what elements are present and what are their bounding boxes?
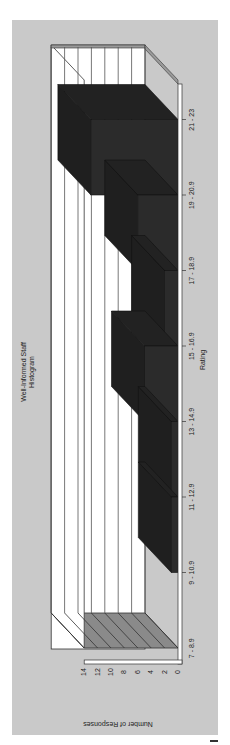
x-axis-title: Rating [199,350,207,370]
chart-subtitle: Histogram [28,356,36,388]
y-tick-label: 6 [134,670,141,674]
y-tick-label: 2 [161,670,168,674]
x-tick-label: 17 - 18.9 [188,257,195,285]
x-tick-label: 11 - 12.9 [188,484,195,511]
page-corner-mark [210,740,218,742]
x-tick-label: 13 - 14.9 [188,408,195,436]
y-tick-label: 12 [94,668,101,676]
x-tick-label: 9 - 10.9 [188,561,195,585]
y-tick-label: 8 [120,670,127,674]
bar-9-10.9 [171,497,178,573]
x-tick-label: 19 - 20.9 [188,181,195,209]
y-axis-line [84,660,182,664]
x-tick-label: 7 - 8.9 [188,638,195,658]
y-tick-label: 10 [107,668,114,676]
bar-11-12.9 [171,422,178,498]
x-tick-label: 15 - 16.9 [188,332,195,360]
y-axis-title: Number of Responses [83,720,153,728]
y-tick-label: 0 [174,670,181,674]
x-axis-line [178,84,182,664]
histogram-chart: 7 - 8.99 - 10.911 - 12.913 - 14.915 - 16… [0,0,230,745]
y-tick-label: 14 [80,668,87,676]
chart-title: Well-Informed Staff [20,342,27,402]
y-tick-label: 4 [147,670,154,674]
x-tick-label: 21 - 23 [188,109,195,131]
